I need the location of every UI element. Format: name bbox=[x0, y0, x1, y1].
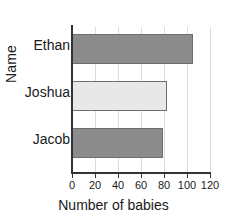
x-axis-tick-mark bbox=[210, 174, 211, 178]
y-axis-tick-label: Jacob bbox=[0, 132, 70, 146]
x-axis-tick-mark bbox=[141, 174, 142, 178]
bar-joshua bbox=[72, 81, 167, 111]
bar-chart: Name Ethan Joshua Jacob 020406080100120 … bbox=[0, 0, 227, 219]
gridline bbox=[210, 27, 211, 172]
bar-jacob bbox=[72, 128, 163, 158]
x-axis-tick-label: 120 bbox=[195, 179, 225, 191]
y-axis-title: Name bbox=[4, 9, 18, 119]
chart-title bbox=[0, 0, 227, 1]
y-axis-tick-label: Joshua bbox=[0, 85, 70, 99]
x-axis-tick-mark bbox=[95, 174, 96, 178]
x-axis-tick-mark bbox=[118, 174, 119, 178]
x-axis-tick-mark bbox=[187, 174, 188, 178]
x-axis-tick-mark bbox=[164, 174, 165, 178]
x-axis-title: Number of babies bbox=[0, 198, 227, 213]
plot-area bbox=[72, 27, 210, 172]
x-axis-tick-mark bbox=[72, 174, 73, 178]
y-axis-tick-label: Ethan bbox=[0, 38, 70, 52]
y-axis-line bbox=[71, 25, 73, 173]
bar-ethan bbox=[72, 34, 193, 64]
